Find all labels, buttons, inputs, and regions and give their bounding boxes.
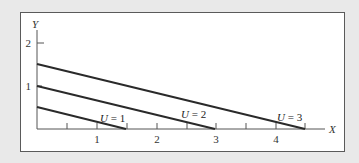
x-tick-label-2: 2 [154,133,160,145]
x-tick-label-4: 4 [273,133,279,145]
curve-label-u1: U = 1 [100,112,125,124]
u-value: = 1 [108,112,125,124]
indifference-curves-chart: Y X 2 1 1 2 3 4 U = 1 U = 2 U = 3 [0,0,359,163]
u-value: = 2 [189,108,206,120]
x-tick-label-1: 1 [94,133,100,145]
u-value: = 3 [285,111,303,123]
y-tick-label-1: 1 [26,80,32,92]
y-axis-title: Y [32,18,40,30]
x-axis-title: X [328,123,337,135]
curve-label-u2: U = 2 [181,108,206,120]
curve-label-u3: U = 3 [277,111,303,123]
y-tick-label-2: 2 [26,37,32,49]
x-tick-label-3: 3 [213,133,219,145]
